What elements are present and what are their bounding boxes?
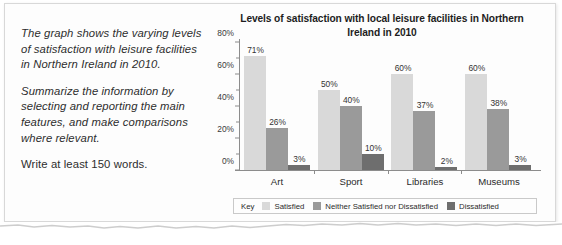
bar-value-label: 37% xyxy=(417,100,434,110)
bar-value-label: 26% xyxy=(269,117,286,127)
bar: 10% xyxy=(362,154,384,170)
bar-value-label: 60% xyxy=(395,63,412,73)
y-tick-mark xyxy=(235,74,239,75)
legend-swatch xyxy=(262,202,270,210)
bar-group: 71%26%3% xyxy=(240,43,314,170)
x-axis-labels: ArtSportLibrariesMuseums xyxy=(240,176,536,187)
task-prompt: The graph shows the varying levels of sa… xyxy=(21,26,207,173)
worksheet-page: The graph shows the varying levels of sa… xyxy=(4,3,556,222)
bar: 2% xyxy=(435,167,457,170)
prompt-paragraph-1: The graph shows the varying levels of sa… xyxy=(21,26,207,73)
bar-group: 50%40%10% xyxy=(314,43,388,170)
x-axis-category-label: Sport xyxy=(314,176,388,187)
y-tick-mark xyxy=(235,106,239,107)
bar-value-label: 50% xyxy=(321,79,338,89)
legend-label: Neither Satisfied nor Dissatisfied xyxy=(325,202,438,211)
bar-group: 60%37%2% xyxy=(388,43,462,170)
bar-value-label: 40% xyxy=(343,95,360,105)
bar: 37% xyxy=(413,111,435,170)
bar-value-label: 10% xyxy=(365,143,382,153)
bar: 50% xyxy=(318,90,340,170)
prompt-paragraph-2: Summarize the information by selecting a… xyxy=(21,84,207,146)
bar-value-label: 60% xyxy=(468,63,485,73)
legend-item: Neither Satisfied nor Dissatisfied xyxy=(313,202,438,211)
bar: 60% xyxy=(391,74,413,170)
x-tick-mark xyxy=(461,170,462,174)
bar: 38% xyxy=(487,109,509,170)
legend-swatch xyxy=(447,202,455,210)
bar-value-label: 3% xyxy=(515,154,527,164)
x-tick-mark xyxy=(314,170,315,174)
plot-area: 0%20%40%60%80% 71%26%3%50%40%10%60%37%2%… xyxy=(239,43,535,171)
y-tick-label: 40% xyxy=(217,92,234,102)
chart-title: Levels of satisfaction with local leisur… xyxy=(232,12,532,39)
bar: 3% xyxy=(509,165,531,170)
bar-groups: 71%26%3%50%40%10%60%37%2%60%38%3% xyxy=(240,43,535,170)
y-tick-label: 80% xyxy=(217,28,234,38)
legend-key-word: Key xyxy=(241,202,254,211)
y-tick-label: 60% xyxy=(217,60,234,70)
y-tick-label: 20% xyxy=(217,124,234,134)
y-tick-mark-minor xyxy=(236,58,239,59)
bar: 40% xyxy=(340,106,362,170)
x-axis-category-label: Art xyxy=(240,176,314,187)
bar: 26% xyxy=(266,128,288,170)
y-tick-mark-minor xyxy=(236,154,239,155)
chart-legend: Key SatisfiedNeither Satisfied nor Dissa… xyxy=(233,198,537,214)
bar-value-label: 2% xyxy=(441,156,453,166)
torn-paper-edge xyxy=(0,222,562,234)
x-axis-category-label: Museums xyxy=(462,176,536,187)
bar: 60% xyxy=(465,74,487,170)
bar-chart: Levels of satisfaction with local leisur… xyxy=(213,12,551,220)
legend-label: Satisfied xyxy=(274,202,304,211)
legend-label: Dissatisfied xyxy=(459,202,499,211)
legend-items: SatisfiedNeither Satisfied nor Dissatisf… xyxy=(262,202,498,211)
x-axis-category-label: Libraries xyxy=(388,176,462,187)
y-tick-mark xyxy=(235,138,239,139)
x-tick-mark xyxy=(388,170,389,174)
y-tick-mark xyxy=(235,170,239,171)
prompt-paragraph-3: Write at least 150 words. xyxy=(21,157,207,173)
y-tick-label: 0% xyxy=(222,156,234,166)
bar-group: 60%38%3% xyxy=(461,43,535,170)
y-tick-mark-minor xyxy=(236,122,239,123)
bar-value-label: 38% xyxy=(490,98,507,108)
y-tick-mark-minor xyxy=(236,90,239,91)
legend-swatch xyxy=(313,202,321,210)
legend-item: Dissatisfied xyxy=(447,202,499,211)
bar: 3% xyxy=(288,165,310,170)
legend-item: Satisfied xyxy=(262,202,304,211)
bar-value-label: 71% xyxy=(247,45,264,55)
bar: 71% xyxy=(244,56,266,170)
bar-value-label: 3% xyxy=(293,154,305,164)
y-tick-mark xyxy=(235,42,239,43)
